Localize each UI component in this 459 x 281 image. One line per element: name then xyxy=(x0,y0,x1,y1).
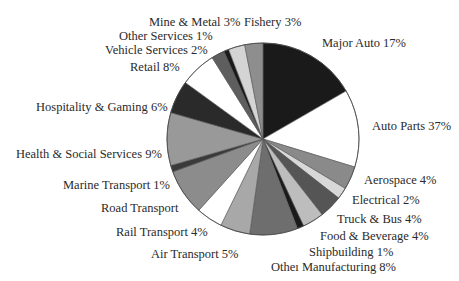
slice-label: Electrical 2% xyxy=(352,193,420,207)
slice-label: Retail 8% xyxy=(130,60,180,74)
slice-label: Aerospace 4% xyxy=(364,173,437,187)
slice-label: Marine Transport 1% xyxy=(63,178,170,192)
slice-label: Fishery 3% xyxy=(244,15,301,29)
slice-label: Shipbuilding 1% xyxy=(309,245,393,259)
slice-label: Truck & Bus 4% xyxy=(337,212,422,226)
slice-label: Health & Social Services 9% xyxy=(16,147,162,161)
slice-label: Air Transport 5% xyxy=(151,247,239,261)
slice-label: Otheı Manufacturing 8% xyxy=(271,260,396,274)
slice-label: Major Auto 17% xyxy=(322,36,406,50)
slice-label: Auto Parts 37% xyxy=(372,119,451,133)
slice-label: Hospitality & Gaming 6% xyxy=(36,100,168,114)
slice-label: Vehicle Services 2% xyxy=(105,43,208,57)
slice-label: Other Services 1% xyxy=(119,29,213,43)
slice-label: Rail Transport 4% xyxy=(116,225,208,239)
slice-label: Mine & Metal 3% xyxy=(149,15,240,29)
slice-label: Road Transport xyxy=(101,201,178,215)
slice-label: Food & Beverage 4% xyxy=(320,229,429,243)
